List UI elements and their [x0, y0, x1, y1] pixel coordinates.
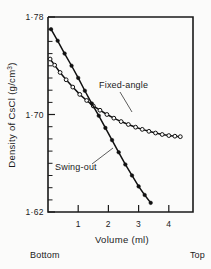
series-markers-fixed-angle: [48, 57, 182, 138]
plot-frame: [48, 17, 193, 212]
data-point: [126, 123, 130, 127]
y-tick-label-mid: 1·70: [25, 110, 44, 120]
x-tick-label-3: 3: [136, 219, 141, 229]
density-vs-volume-chart: 1·78 1·70 1·62 1 2 3 4 Volume (ml) Botto…: [0, 0, 211, 269]
figure-container: 1·78 1·70 1·62 1 2 3 4 Volume (ml) Botto…: [0, 0, 211, 269]
data-point: [98, 108, 102, 112]
svg-text:Density of CsCl (g/cm3): Density of CsCl (g/cm3): [6, 62, 18, 168]
x-axis-title: Volume (ml): [95, 234, 149, 245]
data-point: [64, 78, 68, 82]
data-point: [83, 89, 87, 93]
data-point: [90, 102, 94, 106]
data-point: [173, 134, 177, 138]
data-point: [58, 71, 62, 75]
data-point: [110, 138, 114, 142]
fixed-angle-annotation-label: Fixed-angle: [99, 80, 148, 90]
data-point: [134, 125, 138, 129]
data-point: [140, 127, 144, 131]
data-point: [105, 113, 109, 117]
data-point: [49, 27, 53, 31]
data-point: [53, 63, 57, 67]
data-point: [143, 193, 147, 197]
data-point: [119, 120, 123, 124]
x-axis-ticks: [78, 205, 169, 212]
data-point: [178, 135, 182, 139]
series-line-swing-out: [51, 29, 151, 203]
series-line-fixed-angle: [50, 59, 180, 137]
axis-end-label-bottom: Bottom: [30, 250, 60, 260]
series-markers-swing-out: [49, 27, 152, 204]
data-point: [149, 201, 153, 205]
data-point: [56, 39, 60, 43]
data-point: [137, 185, 141, 189]
data-point: [85, 99, 89, 103]
data-point: [154, 131, 158, 135]
y-axis-major-ticks: [48, 17, 55, 212]
x-tick-label-2: 2: [106, 219, 111, 229]
y-tick-label-bottom: 1·62: [25, 207, 44, 217]
data-point: [117, 150, 121, 154]
data-point: [104, 126, 108, 130]
data-point: [70, 64, 74, 68]
data-point: [78, 92, 82, 96]
data-point: [76, 76, 80, 80]
x-tick-label-1: 1: [76, 219, 81, 229]
data-point: [130, 174, 134, 178]
y-axis-title: Density of CsCl (g/cm3): [6, 62, 18, 168]
data-point: [167, 134, 171, 138]
y-axis-title-main: Density of CsCl (g/cm: [6, 70, 17, 168]
data-point: [124, 163, 128, 167]
data-point: [63, 52, 67, 56]
x-tick-label-4: 4: [166, 219, 171, 229]
data-point: [48, 57, 52, 61]
data-point: [160, 133, 164, 137]
fixed-angle-annotation-leader-line: [120, 92, 132, 112]
y-axis-title-close: ): [6, 62, 17, 65]
data-series-layer: [48, 27, 182, 204]
y-tick-label-top: 1·78: [25, 12, 44, 22]
data-point: [97, 114, 101, 118]
data-point: [147, 129, 151, 133]
axis-end-label-top: Top: [190, 250, 205, 260]
data-point: [112, 116, 116, 120]
data-point: [71, 85, 75, 89]
swing-out-annotation-label: Swing-out: [55, 162, 97, 172]
